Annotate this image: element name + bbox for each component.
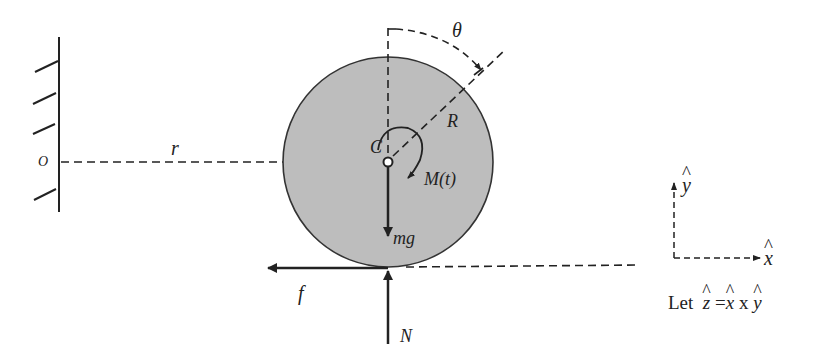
r-label: r xyxy=(171,138,179,158)
y-axis-label: y xyxy=(682,175,691,195)
normal-label: N xyxy=(400,327,412,345)
diagram-canvas: O r C R θ M(t) mg f N y x Let z =x x y xyxy=(0,0,828,360)
radius-label: R xyxy=(447,112,458,130)
weight-label: mg xyxy=(393,229,415,247)
friction-label: f xyxy=(298,283,304,303)
wall xyxy=(33,37,59,212)
moment-label: M(t) xyxy=(424,170,456,188)
cross-product-note: Let z =x x y xyxy=(668,293,762,312)
center-pin xyxy=(384,158,393,167)
center-label: C xyxy=(370,138,382,156)
ground-line xyxy=(406,265,640,267)
origin-label: O xyxy=(38,155,48,169)
x-axis-label: x xyxy=(764,248,773,268)
theta-label: θ xyxy=(452,20,462,40)
